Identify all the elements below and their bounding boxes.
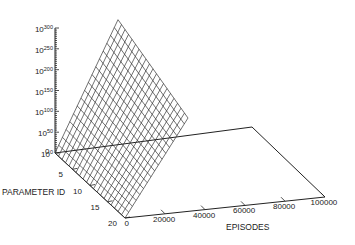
- episodes-tick-label: 40000: [193, 212, 215, 220]
- mesh-line: [122, 113, 185, 215]
- episodes-axis-title: EPISODES: [226, 223, 269, 232]
- episodes-tick: [321, 193, 325, 197]
- mesh-line: [88, 82, 158, 165]
- mesh-line: [115, 103, 178, 208]
- episodes-tick-label: 100000: [311, 199, 338, 207]
- z-tick-label: 10200: [35, 67, 53, 76]
- episodes-tick: [161, 210, 165, 214]
- episodes-tick-label: 60000: [233, 207, 255, 215]
- episodes-tick: [281, 197, 285, 201]
- param-tick-label: 10: [73, 188, 82, 196]
- z-tick-label: 10250: [35, 46, 53, 55]
- episodes-tick-label: 0: [125, 220, 129, 228]
- episodes-tick: [201, 206, 205, 210]
- z-tick-label: 1050: [38, 129, 53, 138]
- episodes-tick: [241, 201, 245, 205]
- back-right-edge: [252, 127, 325, 197]
- param-tick-label: 5: [59, 171, 63, 179]
- episodes-tick-label: 80000: [273, 203, 295, 211]
- mesh-line: [66, 34, 129, 162]
- mesh-line: [70, 122, 140, 195]
- mesh-line: [96, 67, 166, 154]
- mesh-line: [81, 98, 151, 177]
- z-tick-label: 10150: [35, 88, 53, 97]
- mesh-line: [125, 118, 188, 218]
- episodes-tick-label: 20000: [153, 216, 175, 224]
- param-tick-label: 0: [45, 148, 49, 156]
- param-tick-label: 15: [91, 204, 100, 212]
- param-axis-title: PARAMETER ID: [2, 188, 65, 197]
- param-tick-label: 20: [108, 220, 117, 228]
- z-tick-label: 10100: [35, 108, 53, 117]
- surface-plot: [0, 0, 355, 245]
- z-axis-ticks: [55, 28, 59, 153]
- z-tick-label: 10300: [35, 25, 53, 34]
- mesh-line: [118, 108, 181, 211]
